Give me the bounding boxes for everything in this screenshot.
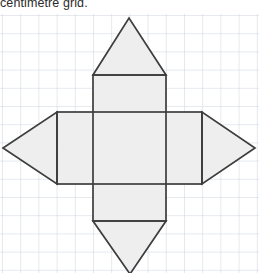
vertical-rectangle xyxy=(93,75,166,221)
page-caption: centimetre grid. xyxy=(0,0,259,14)
worksheet-page: centimetre grid. xyxy=(0,0,259,273)
grid-area xyxy=(0,14,259,273)
net-diagram xyxy=(0,14,259,273)
